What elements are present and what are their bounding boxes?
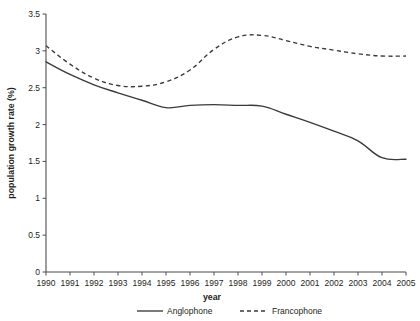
x-tick-label: 2001: [301, 278, 320, 288]
y-axis-title: population growth rate (%): [6, 87, 16, 198]
x-tick-label: 1993: [109, 278, 128, 288]
x-tick-label: 1996: [181, 278, 200, 288]
y-axis-title-group: population growth rate (%): [6, 87, 16, 198]
series-line-anglophone: [46, 62, 406, 160]
x-tick-label: 1994: [133, 278, 152, 288]
y-tick-label: 0.5: [28, 230, 40, 240]
x-tick-label: 1999: [253, 278, 272, 288]
y-axis-ticks: 00.511.522.533.5: [28, 9, 46, 277]
x-tick-label: 1995: [157, 278, 176, 288]
legend-label-francophone: Francophone: [272, 306, 322, 316]
x-tick-label: 1997: [205, 278, 224, 288]
x-tick-label: 1992: [85, 278, 104, 288]
y-tick-label: 1: [35, 193, 40, 203]
x-tick-label: 2005: [397, 278, 416, 288]
x-tick-label: 2004: [373, 278, 392, 288]
y-tick-label: 3.5: [28, 9, 40, 19]
legend-label-anglophone: Anglophone: [167, 306, 213, 316]
series-line-francophone: [46, 35, 406, 87]
x-axis-ticks: 1990199119921993199419951996199719981999…: [37, 272, 416, 288]
x-tick-label: 2002: [325, 278, 344, 288]
population-growth-line-chart: population growth rate (%) 00.511.522.53…: [0, 0, 420, 321]
x-tick-label: 1990: [37, 278, 56, 288]
y-tick-label: 3: [35, 46, 40, 56]
x-tick-label: 1998: [229, 278, 248, 288]
y-tick-label: 2: [35, 120, 40, 130]
x-tick-label: 2000: [277, 278, 296, 288]
x-tick-label: 1991: [61, 278, 80, 288]
y-tick-label: 2.5: [28, 83, 40, 93]
y-tick-label: 1.5: [28, 156, 40, 166]
y-tick-label: 0: [35, 267, 40, 277]
chart-legend: Anglophone Francophone: [137, 306, 322, 316]
x-axis-title: year: [203, 292, 222, 302]
x-tick-label: 2003: [349, 278, 368, 288]
chart-canvas: population growth rate (%) 00.511.522.53…: [0, 0, 420, 321]
